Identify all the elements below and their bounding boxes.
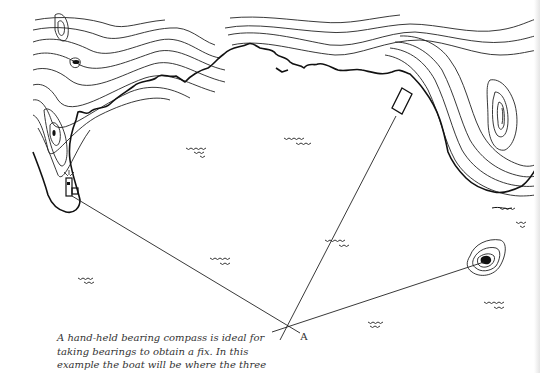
wave-icon (368, 322, 383, 328)
wave-icon (516, 222, 526, 228)
bearing-line-lighthouse (72, 196, 300, 333)
wave-icon (284, 138, 311, 145)
contour-lines-right (225, 15, 540, 196)
contour-lines-left (33, 14, 225, 177)
caption-line: taking bearings to obtain a fix. In this (57, 345, 257, 359)
coastline-detail (276, 68, 288, 72)
page-edge-shadow (534, 0, 540, 373)
wave-icon (186, 148, 206, 158)
headland-hut-icon (392, 88, 412, 114)
bearing-line-hut (280, 116, 396, 340)
chart-map (0, 0, 540, 373)
wave-icon (484, 302, 504, 309)
wave-icon (210, 258, 230, 265)
caption-line: A hand-held bearing compass is ideal for (57, 331, 257, 345)
caption-line: example the boat will be where the three (57, 358, 257, 372)
peak-marker-icon (73, 60, 80, 64)
rock-islet-icon (467, 240, 505, 276)
coastline (33, 43, 538, 212)
bearing-lines (72, 116, 484, 340)
figure-caption: A hand-held bearing compass is ideal for… (57, 331, 257, 372)
fix-position-label: A (300, 330, 308, 342)
wave-icon (78, 278, 94, 284)
peak-marker-icon (52, 130, 55, 136)
